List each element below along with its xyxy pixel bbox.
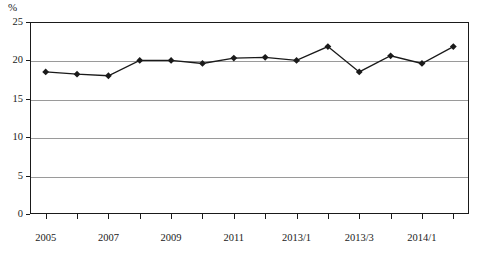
data-series-layer	[0, 0, 484, 261]
data-point-marker	[387, 52, 394, 59]
data-point-marker	[74, 71, 81, 78]
line-chart: % 0510152025 20052007200920112013/12013/…	[0, 0, 484, 261]
data-point-marker	[293, 57, 300, 64]
data-point-marker	[105, 72, 112, 79]
data-point-marker	[262, 54, 269, 61]
data-point-marker	[168, 57, 175, 64]
data-point-marker	[136, 57, 143, 64]
data-point-marker	[199, 60, 206, 67]
data-point-marker	[419, 60, 426, 67]
series-line	[46, 47, 454, 76]
data-point-marker	[230, 55, 237, 62]
data-point-marker	[42, 69, 49, 76]
data-point-marker	[450, 43, 457, 50]
series-markers	[42, 43, 456, 79]
